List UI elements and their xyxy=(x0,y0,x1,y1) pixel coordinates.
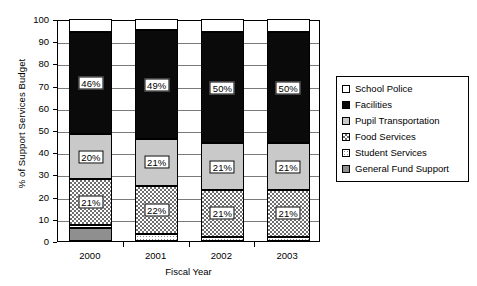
legend-label: Student Services xyxy=(355,148,427,158)
segment-student-services-2001[interactable] xyxy=(135,234,178,241)
segment-food-services-2002[interactable]: 21% xyxy=(201,190,244,237)
x-axis-label-2003: 2003 xyxy=(252,250,322,261)
segment-value-label: 21% xyxy=(210,160,235,173)
y-axis-tick-70: 70 xyxy=(9,82,49,92)
y-axis-tick-30: 30 xyxy=(9,170,49,180)
legend-label: General Fund Support xyxy=(355,164,449,174)
bar-2000[interactable]: 21%20%46% xyxy=(69,19,112,241)
y-tick-mark xyxy=(53,242,57,243)
x-tick-mark xyxy=(254,242,255,247)
segment-school-police-2003[interactable] xyxy=(267,19,310,32)
legend-item-pupil-transportation[interactable]: Pupil Transportation xyxy=(342,113,464,129)
y-axis-tick-10: 10 xyxy=(9,215,49,225)
segment-school-police-2002[interactable] xyxy=(201,19,244,32)
segment-value-label: 21% xyxy=(144,156,169,169)
y-axis-tick-90: 90 xyxy=(9,37,49,47)
segment-value-label: 21% xyxy=(276,160,301,173)
legend-item-student-services[interactable]: Student Services xyxy=(342,145,464,161)
x-axis-label-2001: 2001 xyxy=(121,250,191,261)
legend-item-general-fund-support[interactable]: General Fund Support xyxy=(342,161,464,177)
plot-area: 21%20%46%22%21%49%21%21%50%21%21%50% xyxy=(57,20,320,242)
x-tick-mark xyxy=(123,242,124,247)
legend-swatch-icon xyxy=(342,165,350,173)
bar-2002[interactable]: 21%21%50% xyxy=(201,19,244,241)
segment-value-label: 50% xyxy=(276,81,301,94)
y-axis-tick-80: 80 xyxy=(9,59,49,69)
segment-value-label: 20% xyxy=(78,150,103,163)
chart-root: % of Support Services Budget 01020304050… xyxy=(0,0,477,286)
y-axis-tick-60: 60 xyxy=(9,104,49,114)
y-axis-tick-20: 20 xyxy=(9,193,49,203)
legend-item-facilities[interactable]: Facilities xyxy=(342,97,464,113)
legend-swatch-icon xyxy=(342,133,350,141)
legend-swatch-icon xyxy=(342,85,350,93)
segment-facilities-2001[interactable]: 49% xyxy=(135,30,178,139)
legend-label: Food Services xyxy=(355,132,416,142)
segment-student-services-2003[interactable] xyxy=(267,237,310,241)
x-tick-mark xyxy=(189,242,190,247)
legend-item-food-services[interactable]: Food Services xyxy=(342,129,464,145)
segment-food-services-2000[interactable]: 21% xyxy=(69,179,112,226)
x-axis-title: Fiscal Year xyxy=(57,266,320,277)
segment-student-services-2002[interactable] xyxy=(201,237,244,241)
y-axis-tick-0: 0 xyxy=(9,237,49,247)
segment-value-label: 50% xyxy=(210,81,235,94)
bar-2003[interactable]: 21%21%50% xyxy=(267,19,310,241)
y-axis-tick-100: 100 xyxy=(9,15,49,25)
bar-2001[interactable]: 22%21%49% xyxy=(135,19,178,241)
legend-swatch-icon xyxy=(342,117,350,125)
y-axis-tick-40: 40 xyxy=(9,148,49,158)
segment-value-label: 21% xyxy=(210,207,235,220)
segment-value-label: 21% xyxy=(78,196,103,209)
segment-pupil-transportation-2002[interactable]: 21% xyxy=(201,143,244,190)
segment-facilities-2003[interactable]: 50% xyxy=(267,32,310,143)
segment-pupil-transportation-2000[interactable]: 20% xyxy=(69,134,112,178)
legend-swatch-icon xyxy=(342,101,350,109)
segment-food-services-2001[interactable]: 22% xyxy=(135,186,178,235)
segment-value-label: 49% xyxy=(144,78,169,91)
y-axis-tick-50: 50 xyxy=(9,126,49,136)
segment-pupil-transportation-2003[interactable]: 21% xyxy=(267,143,310,190)
segment-value-label: 21% xyxy=(276,207,301,220)
segment-student-services-2000[interactable] xyxy=(69,225,112,227)
segment-value-label: 46% xyxy=(78,77,103,90)
segment-pupil-transportation-2001[interactable]: 21% xyxy=(135,139,178,186)
chart-legend: School PoliceFacilitiesPupil Transportat… xyxy=(336,76,469,182)
x-axis-label-2000: 2000 xyxy=(55,250,125,261)
segment-facilities-2000[interactable]: 46% xyxy=(69,32,112,134)
x-axis-label-2002: 2002 xyxy=(186,250,256,261)
legend-label: School Police xyxy=(355,84,413,94)
segment-school-police-2000[interactable] xyxy=(69,19,112,32)
segment-school-police-2001[interactable] xyxy=(135,19,178,30)
segment-food-services-2003[interactable]: 21% xyxy=(267,190,310,237)
segment-general-fund-support-2000[interactable] xyxy=(69,228,112,241)
legend-label: Pupil Transportation xyxy=(355,116,440,126)
segment-facilities-2002[interactable]: 50% xyxy=(201,32,244,143)
segment-value-label: 22% xyxy=(144,203,169,216)
legend-swatch-icon xyxy=(342,149,350,157)
legend-item-school-police[interactable]: School Police xyxy=(342,81,464,97)
legend-label: Facilities xyxy=(355,100,392,110)
